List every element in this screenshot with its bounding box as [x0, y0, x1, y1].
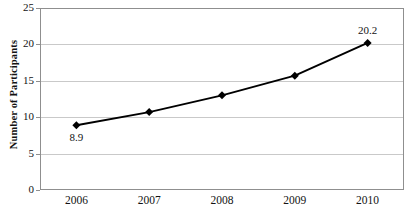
data-point-label: 20.2 — [346, 24, 390, 36]
data-point-marker — [72, 121, 80, 129]
data-point-marker — [218, 91, 226, 99]
data-point-marker — [291, 72, 299, 80]
series-markers — [72, 39, 371, 129]
series-line — [76, 43, 367, 125]
data-point-label: 8.9 — [54, 131, 98, 143]
data-point-marker — [145, 108, 153, 116]
data-point-marker — [364, 39, 372, 47]
line-chart: Number of Participants 0510152025 200620… — [0, 0, 414, 213]
